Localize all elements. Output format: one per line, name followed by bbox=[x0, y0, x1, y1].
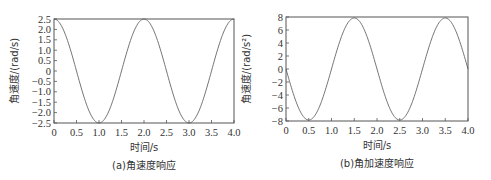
y-tick-label: −1.0 bbox=[32, 86, 51, 97]
y-axis-label: 角速度/(rad/s) bbox=[8, 38, 20, 104]
y-tick-label: 0.5 bbox=[38, 55, 51, 66]
y-tick-label: −4 bbox=[272, 90, 284, 101]
y-tick-label: 0 bbox=[46, 66, 51, 77]
x-tick-label: 2.5 bbox=[160, 127, 173, 138]
y-tick-label: −2.0 bbox=[32, 107, 51, 118]
y-tick-label: 2.5 bbox=[38, 14, 51, 25]
angular-acceleration-line bbox=[286, 18, 468, 120]
plot-frame bbox=[54, 19, 234, 123]
y-tick-label: 1.5 bbox=[38, 34, 51, 45]
y-tick-label: −6 bbox=[272, 103, 283, 114]
x-tick-label: 0.5 bbox=[302, 125, 315, 136]
x-tick-label: 1.5 bbox=[115, 127, 128, 138]
x-tick-label: 2.0 bbox=[137, 127, 150, 138]
angular-velocity-line bbox=[54, 19, 234, 123]
x-tick-label: 0 bbox=[51, 127, 56, 138]
chart-caption: (b)角加速度响应 bbox=[340, 157, 414, 169]
x-tick-label: 2.0 bbox=[370, 125, 383, 136]
figure: 2.52.01.51.00.50−0.5−1.0−1.5−2.0−2.5 00.… bbox=[0, 0, 491, 180]
x-tick-label: 0 bbox=[283, 125, 288, 136]
y-axis-label: 角速度/(rad/s²) bbox=[240, 34, 252, 104]
y-tick-label: −2.5 bbox=[32, 118, 51, 129]
y-tick-label: −0.5 bbox=[32, 76, 51, 87]
chart-angular-velocity: 2.52.01.51.00.50−0.5−1.0−1.5−2.0−2.5 00.… bbox=[8, 14, 241, 172]
chart-angular-acceleration: 86420−2−4−6−8 00.51.01.52.02.53.03.54.0 … bbox=[240, 12, 475, 170]
x-tick-label: 3.0 bbox=[182, 127, 195, 138]
x-tick-label: 0.5 bbox=[70, 127, 83, 138]
x-tick-label: 1.0 bbox=[325, 125, 338, 136]
y-axis-ticks: 2.52.01.51.00.50−0.5−1.0−1.5−2.0−2.5 bbox=[32, 14, 57, 129]
x-tick-label: 1.0 bbox=[92, 127, 105, 138]
y-tick-label: 0 bbox=[278, 64, 283, 75]
y-tick-label: 4 bbox=[278, 38, 284, 49]
chart-caption: (a)角速度响应 bbox=[112, 159, 176, 171]
x-tick-label: 3.5 bbox=[439, 125, 452, 136]
y-tick-label: −2 bbox=[272, 77, 283, 88]
x-tick-label: 4.0 bbox=[461, 125, 474, 136]
x-tick-label: 1.5 bbox=[348, 125, 361, 136]
x-tick-label: 2.5 bbox=[393, 125, 406, 136]
x-axis-label: 时间/s bbox=[363, 139, 392, 151]
x-tick-label: 3.0 bbox=[416, 125, 429, 136]
y-tick-label: −1.5 bbox=[32, 97, 51, 108]
y-tick-label: 2.0 bbox=[38, 24, 51, 35]
y-tick-label: −8 bbox=[272, 116, 283, 127]
x-tick-label: 3.5 bbox=[205, 127, 218, 138]
x-axis-label: 时间/s bbox=[130, 141, 159, 153]
y-tick-label: 2 bbox=[278, 51, 283, 62]
y-tick-label: 8 bbox=[278, 12, 283, 23]
y-tick-label: 1.0 bbox=[38, 45, 51, 56]
x-tick-label: 4.0 bbox=[227, 127, 240, 138]
y-tick-label: 6 bbox=[278, 25, 283, 36]
